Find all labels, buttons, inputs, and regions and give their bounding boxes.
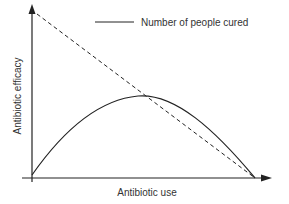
y-axis-arrow-icon: [29, 4, 36, 14]
people-cured-curve: [32, 96, 255, 178]
x-axis-arrow-icon: [261, 175, 272, 182]
legend-label: Number of people cured: [141, 17, 248, 28]
y-axis-label: Antibiotic efficacy: [12, 57, 23, 134]
x-axis-label: Antibiotic use: [117, 187, 177, 198]
legend: Number of people cured: [95, 17, 248, 28]
chart: Number of people cured Antibiotic use An…: [0, 0, 289, 204]
